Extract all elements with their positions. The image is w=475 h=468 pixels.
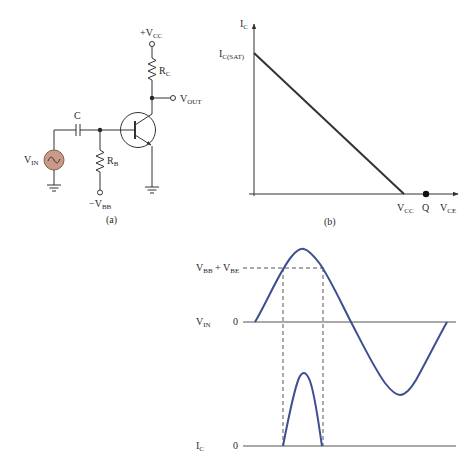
threshold-label: VBB + VBE	[196, 262, 239, 275]
load-line	[254, 53, 404, 194]
capacitor-label: C	[74, 110, 81, 121]
vcc-intercept-label: VCC	[397, 202, 414, 215]
circuit-diagram	[44, 42, 176, 196]
caption-b: (b)	[324, 216, 336, 228]
vbb-label: −VBB	[89, 198, 112, 211]
q-point-label: Q	[422, 202, 430, 213]
vout-label: VOUT	[180, 93, 202, 106]
rc-resistor	[148, 58, 156, 80]
ic-zero-label: 0	[233, 440, 238, 451]
vout-terminal	[171, 96, 176, 101]
ic-sat-label: IC(SAT)	[219, 48, 245, 61]
vin-waveform-label: VIN	[196, 316, 211, 329]
load-line-chart	[249, 24, 458, 197]
ic-waveform-label: IC	[196, 440, 204, 453]
vin-source-label: VIN	[24, 154, 39, 167]
ic-pulse-curve	[283, 373, 322, 446]
rb-label: RB	[107, 155, 119, 168]
vin-zero-label: 0	[233, 316, 238, 327]
emitter-arrow	[135, 135, 151, 145]
rb-resistor	[96, 150, 104, 172]
waveform-plot	[243, 249, 456, 446]
vcc-label: +VCC	[140, 27, 163, 40]
q-point	[423, 191, 429, 197]
ground-icon	[145, 187, 159, 193]
vce-axis-label: VCE	[440, 202, 456, 215]
rc-label: RC	[159, 65, 171, 78]
ic-axis-label: IC	[240, 18, 248, 31]
vcc-terminal	[150, 42, 155, 47]
ground-icon	[47, 185, 61, 191]
caption-a: (a)	[106, 214, 117, 226]
vbb-terminal	[98, 190, 103, 195]
